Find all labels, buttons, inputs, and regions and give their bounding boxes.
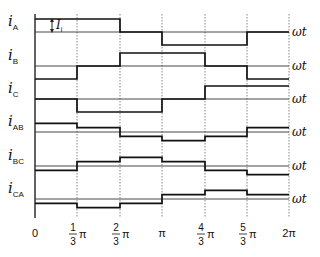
- tick-label: 23π: [112, 222, 130, 247]
- svg-text:2: 2: [113, 222, 119, 233]
- signal-label: iB: [8, 46, 18, 66]
- tick-label: 43π: [197, 222, 215, 247]
- tick-label: 0: [32, 227, 38, 239]
- svg-text:π: π: [249, 228, 257, 240]
- tick-label: 2π: [282, 227, 296, 239]
- svg-text:3: 3: [240, 236, 246, 247]
- svg-text:1: 1: [70, 222, 76, 233]
- svg-text:π: π: [122, 228, 130, 240]
- svg-text:2π: 2π: [282, 227, 296, 239]
- amplitude-annotation: Ii: [50, 18, 63, 33]
- svg-text:3: 3: [113, 236, 119, 247]
- signal-label: iA: [8, 12, 19, 32]
- tick-label: 53π: [239, 222, 257, 247]
- waveform-ca: iCAωt: [8, 179, 307, 208]
- waveform-diagram: iAωtiBωtiCωtiABωtiBCωtiCAωt 013π23ππ43π5…: [0, 0, 320, 257]
- waveform-c: iCωt: [8, 79, 307, 112]
- waveform-b: iBωt: [8, 46, 307, 79]
- svg-text:4: 4: [198, 222, 204, 233]
- svg-text:3: 3: [70, 236, 76, 247]
- signal-label: iBC: [8, 146, 24, 166]
- signal-label: iAB: [8, 112, 23, 132]
- svg-text:3: 3: [198, 236, 204, 247]
- x-axis-ticks: 013π23ππ43π53π2π: [32, 222, 296, 247]
- waveform-ab: iABωt: [8, 112, 307, 141]
- signal-label: iC: [8, 79, 19, 99]
- omega-t-label: ωt: [292, 25, 307, 39]
- waveform-a: iAωt: [8, 12, 307, 45]
- omega-t-label: ωt: [292, 159, 307, 173]
- svg-text:π: π: [158, 227, 166, 239]
- svg-text:5: 5: [240, 222, 246, 233]
- tick-label: 13π: [69, 222, 87, 247]
- tick-label: π: [158, 227, 166, 239]
- waveforms: iAωtiBωtiCωtiABωtiBCωtiCAωt: [8, 12, 307, 208]
- svg-text:π: π: [79, 228, 87, 240]
- signal-label: iCA: [8, 179, 25, 199]
- svg-text:π: π: [207, 228, 215, 240]
- omega-t-label: ωt: [292, 59, 307, 73]
- omega-t-label: ωt: [292, 192, 307, 206]
- waveform-bc: iBCωt: [8, 146, 307, 175]
- omega-t-label: ωt: [292, 125, 307, 139]
- omega-t-label: ωt: [292, 92, 307, 106]
- svg-text:0: 0: [32, 227, 38, 239]
- svg-text:Ii: Ii: [55, 18, 63, 33]
